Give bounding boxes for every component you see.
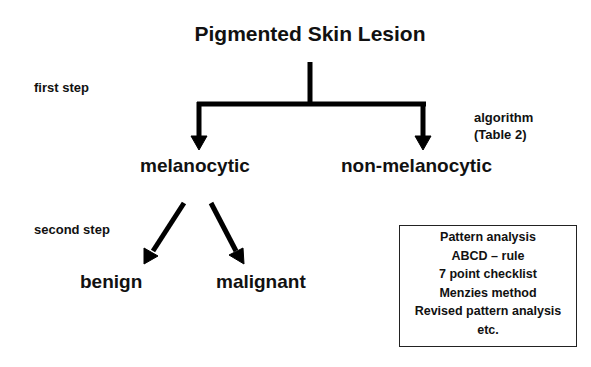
arrow-to-malignant — [211, 203, 236, 251]
arrowhead-non-melanocytic-icon — [415, 136, 431, 150]
method-item: etc. — [400, 321, 576, 340]
methods-box: Pattern analysis ABCD – rule 7 point che… — [399, 225, 577, 347]
method-item: 7 point checklist — [400, 265, 576, 284]
method-item: ABCD – rule — [400, 247, 576, 266]
method-item: Menzies method — [400, 284, 576, 303]
method-item: Revised pattern analysis — [400, 302, 576, 321]
method-item: Pattern analysis — [400, 228, 576, 247]
arrow-to-benign — [153, 203, 184, 251]
arrowhead-melanocytic-icon — [191, 136, 207, 150]
